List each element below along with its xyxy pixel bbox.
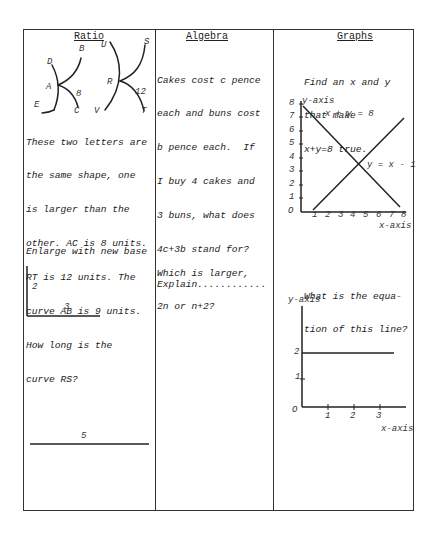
g2-xtick: 2: [350, 411, 355, 421]
g2-y-axis-label: y-axis: [288, 295, 320, 305]
small-letter-stem-bottom: [42, 110, 54, 113]
small-letter-arm-up: [58, 58, 81, 85]
g1-ytick: 1: [289, 192, 294, 202]
g2-xtick: 3: [376, 411, 381, 421]
label-D: D: [47, 57, 52, 67]
g1-xtick: 1: [312, 210, 317, 220]
small-letter-arm-down: [58, 85, 78, 107]
large-letter-stem: [105, 42, 120, 110]
g2-ytick-2: 2: [294, 347, 299, 357]
new-base-label: 5: [81, 431, 86, 441]
graphs-question-2: What is the equa- tion of this line?: [304, 268, 408, 347]
label-B: B: [79, 44, 84, 54]
label-S: S: [144, 37, 149, 47]
g1-line2-label: y = x - 1: [367, 160, 416, 170]
small-shape-base-label: 3: [64, 302, 69, 312]
g1-xtick: 7: [389, 210, 394, 220]
g1-ytick: 4: [289, 152, 294, 162]
g1-y-axis-label: y-axis: [302, 96, 334, 106]
g2-x-axis-label: x-axis: [381, 424, 413, 434]
g1-line1-label: x + y = 8: [325, 109, 374, 119]
small-shape-height-label: 2: [32, 282, 37, 292]
g1-ytick: 3: [289, 165, 294, 175]
small-letter-stem: [52, 65, 58, 110]
g1-ytick: 8: [289, 98, 294, 108]
g1-ytick: 2: [289, 179, 294, 189]
g1-xtick: 4: [350, 210, 355, 220]
g2-xtick: 1: [325, 411, 330, 421]
g1-ytick: 5: [289, 138, 294, 148]
algebra-question-1: Cakes cost c pence each and buns cost b …: [157, 52, 261, 267]
label-12: 12: [135, 87, 146, 97]
label-R: R: [107, 77, 112, 87]
large-letter-arm-up: [120, 45, 145, 81]
g1-xtick: 8: [401, 210, 406, 220]
g1-xtick: 2: [325, 210, 330, 220]
g1-x-axis-label: x-axis: [379, 221, 411, 231]
label-E: E: [34, 100, 39, 110]
g1-xtick: 3: [338, 210, 343, 220]
label-A: A: [46, 82, 51, 92]
g2-ytick-1: 1: [295, 372, 300, 382]
label-8: 8: [76, 89, 81, 99]
g1-ytick: 7: [289, 111, 294, 121]
g1-ytick: O: [288, 206, 293, 216]
g1-ytick: 6: [289, 125, 294, 135]
enlarge-prompt: Enlarge with new base: [26, 246, 147, 257]
label-U: U: [101, 40, 106, 50]
g2-origin: O: [292, 405, 297, 415]
g1-xtick: 5: [363, 210, 368, 220]
explain-answer-line: Explain............: [157, 279, 266, 290]
g1-xtick: 6: [376, 210, 381, 220]
